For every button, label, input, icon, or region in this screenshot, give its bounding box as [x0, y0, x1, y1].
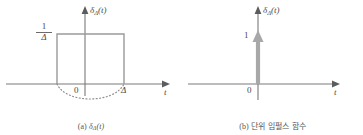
- panel-delta-pulse: 1 Δ δΔ(t) 0 Δ t (a) δΔ(t): [0, 0, 182, 135]
- impulse-amplitude-label: 1: [244, 31, 249, 40]
- dotted-gaussian-curve: [57, 84, 124, 99]
- pulse-height-numerator: 1: [36, 22, 52, 31]
- caption-a-prefix: (a): [78, 122, 87, 131]
- pulse-height-denominator: Δ: [36, 33, 52, 42]
- caption-b-prefix: (b): [239, 122, 249, 131]
- origin-label-a: 0: [74, 86, 79, 95]
- caption-b: (b) 단위 임펄스 함수: [182, 120, 363, 131]
- caption-b-text: 단위 임펄스 함수: [251, 122, 306, 131]
- plot-svg-a: [0, 0, 182, 110]
- panel-unit-impulse: 1 δΔ(t) 0 t (b) 단위 임펄스 함수: [182, 0, 363, 135]
- caption-a: (a) δΔ(t): [0, 122, 182, 131]
- figure-container: 1 Δ δΔ(t) 0 Δ t (a) δΔ(t): [0, 0, 363, 135]
- y-axis-label-a: δΔ(t): [90, 6, 107, 17]
- x-axis-label-b: t: [334, 88, 337, 97]
- plot-area-a: [0, 0, 182, 110]
- y-axis-label-a-arg: (t): [98, 5, 107, 15]
- y-axis-label-b: δΔ(t): [263, 6, 280, 17]
- caption-a-arg: (t): [96, 122, 104, 131]
- y-axis-arrowhead-icon: [255, 6, 262, 14]
- pulse-height-label: 1 Δ: [36, 22, 52, 43]
- unit-impulse-arrowhead-icon: [253, 30, 264, 42]
- x-tick-label-delta: Δ: [121, 86, 126, 95]
- y-axis-arrowhead-icon: [82, 6, 89, 14]
- x-axis-label-a: t: [164, 88, 167, 97]
- y-axis-label-b-arg: (t): [271, 5, 280, 15]
- origin-label-b: 0: [247, 86, 252, 95]
- rectangular-pulse-outline: [57, 34, 124, 84]
